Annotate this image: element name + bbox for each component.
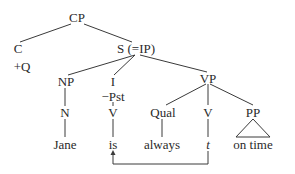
node-n: N: [60, 106, 69, 119]
node-np: NP: [58, 75, 75, 88]
node-cp: CP: [69, 11, 85, 24]
node-v: V: [203, 106, 212, 119]
feature-minus-pst: −Pst: [101, 90, 124, 103]
node-vp: VP: [200, 72, 217, 85]
branch-vp-pp: [210, 84, 253, 105]
movement-arrow-line: [113, 151, 208, 164]
node-pp: PP: [246, 106, 260, 119]
word-always: always: [144, 138, 180, 151]
pp-triangle: [236, 119, 270, 137]
word-trace: t: [206, 138, 210, 151]
branch-cp-s: [84, 24, 132, 42]
node-qual: Qual: [150, 106, 175, 119]
branch-s-vp: [140, 55, 207, 72]
branch-cp-c: [20, 24, 71, 42]
word-jane: Jane: [53, 138, 76, 151]
node-v-raised: V: [108, 106, 117, 119]
feature-plus-q: +Q: [14, 60, 31, 73]
syntax-tree-diagram: CP C +Q S (=IP) NP I −Pst VP N V Qual V …: [0, 0, 295, 174]
branch-vp-qual: [166, 84, 206, 105]
word-on-time: on time: [233, 138, 272, 151]
node-c: C: [14, 42, 23, 55]
node-s-ip: S (=IP): [117, 42, 155, 55]
node-i: I: [111, 75, 115, 88]
word-is: is: [109, 138, 118, 151]
